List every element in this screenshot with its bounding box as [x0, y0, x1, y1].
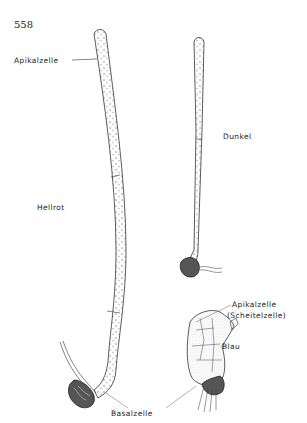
label-scheitelzelle: (Scheitelzelle)	[227, 311, 286, 320]
label-hellrot: Hellrot	[37, 203, 65, 212]
leader-basalzelle-right	[166, 386, 196, 408]
leader-apikalzelle-top	[72, 59, 97, 60]
leader-basalzelle-left	[106, 393, 128, 408]
label-apikalzelle-top: Apikalzelle	[14, 56, 59, 65]
label-dunkel: Dunkel	[223, 132, 251, 141]
dunkel-filament	[180, 38, 222, 278]
label-basalzelle: Basalzelle	[111, 409, 153, 418]
label-apikalzelle-blau: Apikalzelle	[232, 300, 277, 309]
label-blau: Blau	[222, 342, 240, 351]
hellrot-filament	[60, 30, 126, 408]
blau-filament	[187, 310, 238, 412]
